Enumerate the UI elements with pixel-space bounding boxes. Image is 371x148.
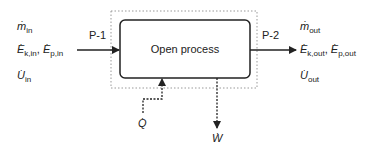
work-label: ·W xyxy=(212,133,222,144)
outlet-internal-energy: ·Uout xyxy=(300,70,319,84)
inlet-energy-flows: ·Ek,in, ·Ep,in xyxy=(17,44,63,58)
inlet-internal-energy: ·Uin xyxy=(17,70,31,84)
heat-arrow xyxy=(143,79,162,113)
outlet-port-label: P-2 xyxy=(262,30,279,41)
process-label: Open process xyxy=(120,43,250,55)
inlet-port-label: P-1 xyxy=(89,30,106,41)
inlet-mass-flow: ·min xyxy=(17,21,32,35)
outlet-energy-flows: ·Ek,out, ·Ep,out xyxy=(300,44,356,58)
heat-label: ·Q xyxy=(138,118,147,129)
outlet-mass-flow: ·mout xyxy=(300,21,320,35)
